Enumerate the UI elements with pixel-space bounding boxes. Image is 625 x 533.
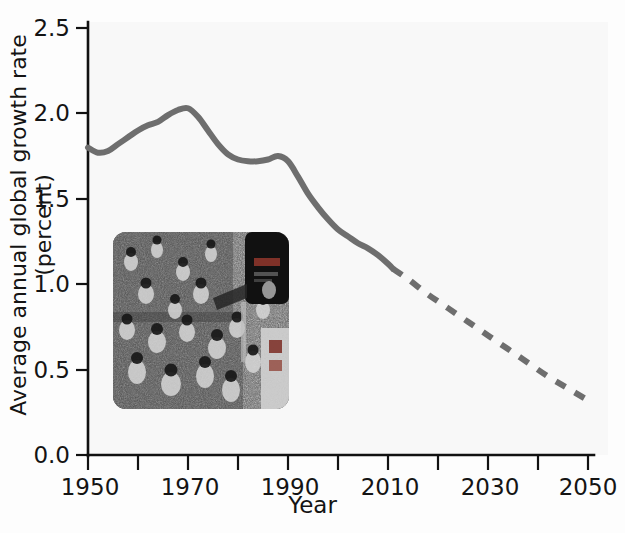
chart-canvas	[0, 0, 625, 533]
chart-figure: 2.5 2.0 1.5 1.0 0.5 0.0 1950 1970 1990 2…	[0, 0, 625, 533]
y-axis-title: Average annual global growth rate (perce…	[6, 0, 56, 455]
x-axis-title: Year	[0, 492, 625, 518]
y-axis	[76, 22, 88, 456]
x-axis	[88, 455, 594, 470]
crowd-photo-graphic	[113, 232, 289, 409]
growth-rate-line-projected	[393, 269, 588, 401]
crowd-photograph-inset	[113, 232, 289, 409]
